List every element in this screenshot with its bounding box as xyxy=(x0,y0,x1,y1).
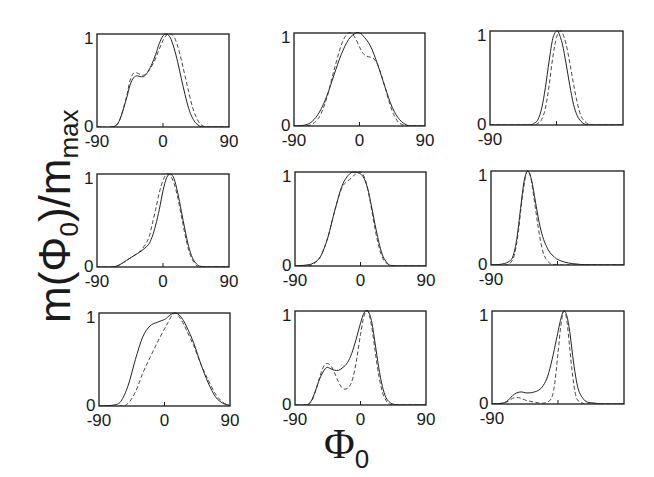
svg-text:m(Φ0)/mmax: m(Φ0)/mmax xyxy=(30,109,84,323)
y-label-main: m(Φ xyxy=(30,237,79,323)
axes-frame xyxy=(97,34,229,127)
curve-dashed xyxy=(492,311,624,404)
y-label-sub: 0 xyxy=(54,222,84,236)
x-tick-label-0: 0 xyxy=(355,131,364,150)
y-tick-label-1: 1 xyxy=(282,167,291,186)
x-tick-label--90: -90 xyxy=(282,131,307,150)
y-tick-label-1: 1 xyxy=(477,26,486,45)
panel-r1-c1: 10-90090 xyxy=(282,167,435,290)
curve-solid xyxy=(490,31,623,126)
axes-frame xyxy=(295,172,426,266)
small-multiples-grid: 10-9009010-9009010-9010-9009010-9009010-… xyxy=(0,0,654,477)
axes-frame xyxy=(490,31,623,125)
curve-dashed xyxy=(97,174,229,267)
curve-dashed xyxy=(99,313,230,406)
curve-solid xyxy=(492,311,624,404)
curve-dashed xyxy=(490,31,623,125)
curve-dashed xyxy=(294,33,425,126)
axes-frame xyxy=(491,171,624,265)
x-tick-label-0: 0 xyxy=(158,132,167,151)
y-axis-label: m(Φ0)/mmax xyxy=(12,95,92,330)
curve-solid xyxy=(295,172,426,266)
x-tick-label-0: 0 xyxy=(160,411,169,430)
x-tick-label--90: -90 xyxy=(480,409,505,428)
y-tick-label-1: 1 xyxy=(281,28,290,47)
y-label-sub2: max xyxy=(54,109,84,158)
x-tick-label-0: 0 xyxy=(158,272,167,291)
svg-text:Φ0: Φ0 xyxy=(324,421,369,474)
curve-dashed xyxy=(491,171,624,265)
x-label-sub: 0 xyxy=(355,444,369,474)
x-tick-label-90: 90 xyxy=(416,131,435,150)
y-label-tail: )/m xyxy=(30,159,79,223)
x-axis-label: Φ0 xyxy=(320,418,400,477)
y-tick-label-1: 1 xyxy=(282,306,291,325)
curve-dashed xyxy=(97,34,229,128)
panel-r0-c0: 10-90090 xyxy=(84,29,238,151)
curve-solid xyxy=(97,174,229,267)
x-tick-label--90: -90 xyxy=(478,130,503,149)
curve-solid xyxy=(97,34,229,127)
x-tick-label--90: -90 xyxy=(87,411,112,430)
y-tick-label-1: 1 xyxy=(84,29,93,48)
axes-frame xyxy=(97,174,229,267)
y-tick-label-1: 1 xyxy=(478,166,487,185)
x-tick-label-90: 90 xyxy=(221,411,240,430)
axes-frame xyxy=(99,313,230,406)
x-tick-label-90: 90 xyxy=(417,271,436,290)
y-tick-label-1: 1 xyxy=(479,306,488,325)
panel-r2-c0: 10-90090 xyxy=(86,308,239,430)
x-tick-label--90: -90 xyxy=(479,270,504,289)
x-label-main: Φ xyxy=(324,421,355,467)
panel-r1-c2: 10-90 xyxy=(478,166,624,289)
panel-r2-c1: 10-90090 xyxy=(282,306,435,429)
panel-r2-c2: 10-90 xyxy=(479,306,624,428)
axes-frame xyxy=(492,311,624,404)
x-tick-label-90: 90 xyxy=(220,132,239,151)
x-tick-label--90: -90 xyxy=(283,410,308,429)
axes-frame xyxy=(295,311,426,405)
panel-r1-c0: 10-90090 xyxy=(84,169,238,291)
curve-dashed xyxy=(295,172,426,266)
panel-r0-c2: 10-90 xyxy=(477,26,623,149)
curve-solid xyxy=(491,171,624,265)
x-tick-label-0: 0 xyxy=(356,271,365,290)
curve-solid xyxy=(295,310,426,405)
x-tick-label-90: 90 xyxy=(220,272,239,291)
x-tick-label--90: -90 xyxy=(283,271,308,290)
figure: 10-9009010-9009010-9010-9009010-9009010-… xyxy=(0,0,654,477)
curve-solid xyxy=(99,313,230,406)
panel-r0-c1: 10-90090 xyxy=(281,28,434,150)
x-tick-label-90: 90 xyxy=(417,410,436,429)
